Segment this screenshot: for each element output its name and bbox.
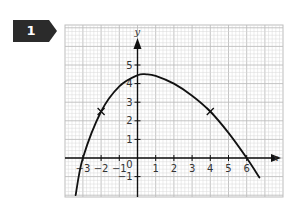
y-tick-label: 1 <box>126 134 132 145</box>
y-axis-label: y <box>134 26 141 37</box>
x-tick-label: 4 <box>207 163 213 174</box>
y-tick-label: 2 <box>126 115 132 126</box>
x-tick-label: 2 <box>171 163 177 174</box>
x-tick-label: 0 <box>126 159 132 170</box>
y-tick-label: 3 <box>126 97 132 108</box>
x-tick-label: 3 <box>189 163 195 174</box>
y-tick-label: −1 <box>118 171 133 182</box>
x-tick-label: 6 <box>244 163 250 174</box>
x-axis-label: x <box>273 152 279 163</box>
graph-plot: xy −3−2−10123456−112345 <box>0 0 296 202</box>
x-tick-label: −2 <box>94 163 109 174</box>
x-tick-label: 1 <box>153 163 159 174</box>
x-tick-label: 5 <box>225 163 231 174</box>
x-tick-label: −3 <box>76 163 91 174</box>
y-tick-label: 5 <box>126 60 132 71</box>
